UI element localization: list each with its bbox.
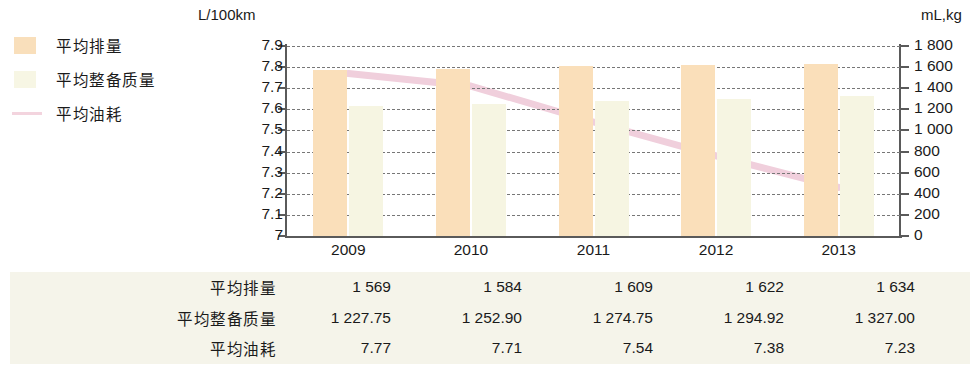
left-axis-tick-label: 7.8 — [213, 57, 283, 75]
left-axis-tick-label: 7.2 — [213, 184, 283, 202]
table-cell: 1 584 — [413, 278, 544, 296]
left-axis-tick-label: 7.7 — [213, 78, 283, 96]
data-table: 平均排量1 5691 5841 6091 6221 634平均整备质量1 227… — [10, 272, 970, 364]
right-axis-tick — [900, 129, 909, 131]
right-axis-tick-label: 200 — [914, 205, 980, 223]
right-axis-tick-label: 400 — [914, 184, 980, 202]
right-axis-tick — [900, 45, 909, 47]
right-axis-tick — [900, 172, 909, 174]
bar-curb-weight-2010 — [472, 104, 506, 236]
x-axis-label-2011: 2011 — [549, 241, 639, 259]
table-row: 平均油耗7.777.717.547.387.23 — [10, 333, 970, 364]
table-row: 平均排量1 5691 5841 6091 6221 634 — [10, 272, 970, 303]
x-axis-line — [285, 236, 902, 238]
bar-curb-weight-2013 — [840, 96, 874, 236]
bar-displacement-2013 — [804, 64, 838, 236]
left-axis-tick-label: 7.1 — [213, 205, 283, 223]
bar-displacement-2012 — [681, 65, 715, 236]
table-cell: 1 622 — [675, 278, 806, 296]
right-axis-tick-label: 1 400 — [914, 78, 980, 96]
right-axis-tick — [900, 193, 909, 195]
plot-area: 7.91 8007.81 6007.71 4007.61 2007.51 000… — [287, 46, 900, 236]
right-axis-tick — [900, 214, 909, 216]
bar-displacement-2010 — [436, 69, 470, 236]
table-row-label: 平均排量 — [10, 276, 282, 298]
right-axis-tick — [900, 108, 909, 110]
table-cell: 7.71 — [413, 339, 544, 357]
right-axis-tick — [900, 235, 909, 237]
bar-curb-weight-2009 — [349, 106, 383, 236]
left-axis-tick-label: 7 — [213, 226, 283, 244]
right-axis-tick-label: 0 — [914, 226, 980, 244]
right-axis-tick-label: 1 000 — [914, 120, 980, 138]
right-axis-tick-label: 1 600 — [914, 57, 980, 75]
table-cell: 1 634 — [806, 278, 937, 296]
x-axis-label-2010: 2010 — [426, 241, 516, 259]
table-cell: 1 327.00 — [806, 309, 937, 327]
table-row: 平均整备质量1 227.751 252.901 274.751 294.921 … — [10, 303, 970, 334]
bar-displacement-2009 — [313, 70, 347, 236]
table-row-label: 平均油耗 — [10, 337, 282, 359]
table-cell: 1 294.92 — [675, 309, 806, 327]
combo-chart: L/100km mL,kg 7.91 8007.81 6007.71 4007.… — [0, 0, 980, 262]
left-axis-tick-label: 7.9 — [213, 36, 283, 54]
right-axis-tick — [900, 87, 909, 89]
left-axis-tick-label: 7.3 — [213, 163, 283, 181]
right-axis-tick-label: 800 — [914, 142, 980, 160]
right-axis-tick — [900, 66, 909, 68]
right-axis-tick-label: 600 — [914, 163, 980, 181]
table-cell: 7.23 — [806, 339, 937, 357]
table-cell: 1 609 — [544, 278, 675, 296]
right-axis-tick-label: 1 800 — [914, 36, 980, 54]
bar-curb-weight-2012 — [717, 99, 751, 236]
table-cell: 1 274.75 — [544, 309, 675, 327]
gridline — [287, 46, 900, 47]
bar-displacement-2011 — [559, 66, 593, 236]
table-cell: 7.77 — [282, 339, 413, 357]
table-cell: 1 227.75 — [282, 309, 413, 327]
x-axis-label-2012: 2012 — [671, 241, 761, 259]
right-axis-unit-label: mL,kg — [921, 6, 962, 23]
left-axis-unit-label: L/100km — [198, 6, 256, 23]
table-cell: 7.54 — [544, 339, 675, 357]
right-axis-tick — [900, 151, 909, 153]
left-axis-tick-label: 7.6 — [213, 99, 283, 117]
table-cell: 7.38 — [675, 339, 806, 357]
right-axis-tick-label: 1 200 — [914, 99, 980, 117]
table-cell: 1 569 — [282, 278, 413, 296]
x-axis-label-2009: 2009 — [303, 241, 393, 259]
x-axis-labels: 20092010201120122013 — [287, 241, 900, 265]
table-cell: 1 252.90 — [413, 309, 544, 327]
left-axis-tick-label: 7.5 — [213, 120, 283, 138]
left-axis-tick-label: 7.4 — [213, 142, 283, 160]
x-axis-label-2013: 2013 — [794, 241, 884, 259]
bar-curb-weight-2011 — [595, 101, 629, 236]
table-row-label: 平均整备质量 — [10, 307, 282, 329]
